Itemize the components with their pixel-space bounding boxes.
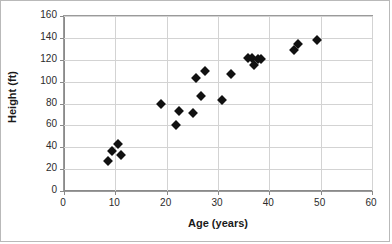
y-axis-tick: [60, 60, 64, 61]
x-axis-tick: [64, 191, 65, 195]
y-axis-tick-labels: 020406080100120140160: [1, 15, 57, 192]
x-axis-tick-label: 0: [60, 198, 66, 208]
y-axis-tick-label: 0: [51, 185, 57, 195]
x-axis-tick: [167, 191, 168, 195]
y-axis-tick-label: 40: [46, 141, 57, 151]
x-axis-tick-labels: 0102030405060: [63, 198, 373, 212]
y-axis-tick: [60, 104, 64, 105]
gridline-horizontal: [64, 82, 372, 83]
y-axis-tick: [60, 147, 64, 148]
chart-container: Height (ft) 020406080100120140160 010203…: [0, 0, 390, 242]
y-axis-tick-label: 80: [46, 98, 57, 108]
y-axis-tick: [60, 82, 64, 83]
data-point: [226, 69, 236, 79]
x-axis-tick-label: 20: [160, 198, 171, 208]
plot-area: [63, 15, 373, 192]
x-axis-tick: [269, 191, 270, 195]
x-axis-tick: [115, 191, 116, 195]
y-axis-tick: [60, 16, 64, 17]
y-axis-tick-label: 60: [46, 119, 57, 129]
y-axis-tick: [60, 125, 64, 126]
data-point: [156, 99, 166, 109]
y-axis-tick-label: 140: [40, 32, 57, 42]
gridline-vertical: [372, 16, 373, 191]
gridline-horizontal: [64, 125, 372, 126]
y-axis-tick: [60, 191, 64, 192]
x-axis-tick: [372, 191, 373, 195]
x-axis-tick-label: 50: [314, 198, 325, 208]
gridline-horizontal: [64, 38, 372, 39]
gridline-horizontal: [64, 16, 372, 17]
gridline-horizontal: [64, 104, 372, 105]
data-point: [188, 108, 198, 118]
y-axis-tick-label: 120: [40, 54, 57, 64]
x-axis-tick: [321, 191, 322, 195]
y-axis-tick-label: 160: [40, 10, 57, 20]
x-axis-title: Age (years): [63, 217, 373, 229]
y-axis-tick-label: 20: [46, 163, 57, 173]
data-point: [117, 150, 127, 160]
gridline-horizontal: [64, 60, 372, 61]
data-point: [174, 106, 184, 116]
x-axis-tick-label: 10: [109, 198, 120, 208]
gridline-horizontal: [64, 169, 372, 170]
data-point: [196, 91, 206, 101]
x-axis-tick: [218, 191, 219, 195]
y-axis-tick: [60, 38, 64, 39]
data-point: [171, 120, 181, 130]
y-axis-tick: [60, 169, 64, 170]
data-point: [200, 66, 210, 76]
x-axis-tick-label: 30: [211, 198, 222, 208]
x-axis-tick-label: 40: [263, 198, 274, 208]
y-axis-tick-label: 100: [40, 76, 57, 86]
data-point: [103, 157, 113, 167]
x-axis-tick-label: 60: [365, 198, 376, 208]
